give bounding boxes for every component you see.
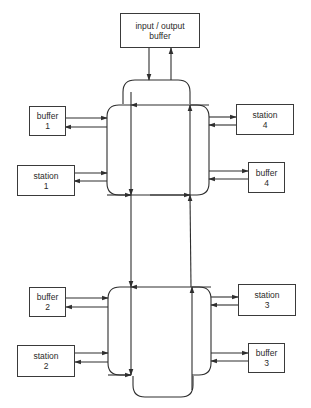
station-2-label-line2: 2 (44, 361, 49, 371)
buffer-1-node: buffer 1 (29, 106, 66, 136)
station-3-label-line1: station (254, 290, 279, 300)
buffer-3-label-line2: 3 (264, 358, 269, 368)
buffer-4-node: buffer 4 (248, 162, 285, 193)
station-4-label-line1: station (252, 110, 277, 120)
lower-hub-body-left (108, 287, 131, 375)
buffer-2-label-line2: 2 (45, 302, 50, 312)
upper-loop-top-tab (123, 80, 190, 104)
station-1-label-line1: station (33, 171, 58, 181)
io-buffer-label-line1: input / output (135, 21, 184, 31)
upper-hub-body (107, 105, 131, 195)
buffer-4-label-line2: 4 (264, 178, 269, 188)
lower-hub-body-right (192, 287, 211, 375)
io-buffer-node: input / output buffer (120, 13, 200, 48)
flow-diagram: input / output buffer buffer 1 station 1… (0, 0, 311, 408)
buffer-1-label-line1: buffer (37, 111, 59, 121)
station-4-label-line2: 4 (263, 120, 268, 130)
right-spine-segment-2 (190, 195, 191, 287)
buffer-4-label-line1: buffer (256, 168, 278, 178)
buffer-3-node: buffer 3 (248, 343, 285, 373)
upper-hub-body-right (190, 105, 209, 195)
station-2-node: station 2 (17, 345, 75, 377)
buffer-2-label-line1: buffer (37, 292, 59, 302)
buffer-3-label-line1: buffer (256, 348, 278, 358)
station-2-label-line1: station (33, 351, 58, 361)
station-1-node: station 1 (17, 165, 75, 196)
station-3-label-line2: 3 (265, 300, 270, 310)
io-buffer-label-line2: buffer (149, 31, 171, 41)
lower-loop-bottom-tab (133, 376, 193, 397)
buffer-2-node: buffer 2 (29, 287, 66, 317)
station-3-node: station 3 (238, 284, 296, 316)
station-1-label-line2: 1 (44, 181, 49, 191)
buffer-1-label-line2: 1 (45, 121, 50, 131)
station-4-node: station 4 (236, 104, 294, 135)
